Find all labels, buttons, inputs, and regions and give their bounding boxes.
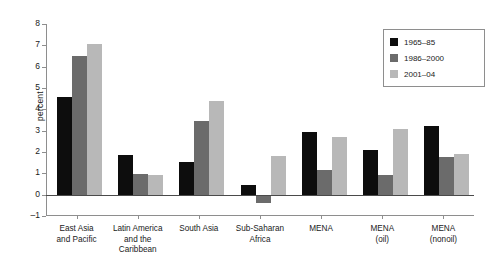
bar (72, 56, 87, 195)
legend-label: 1965–85 (404, 38, 435, 47)
y-axis-tick-label: –1 (20, 211, 40, 220)
bar (393, 129, 408, 195)
y-axis-tick-label: 8 (20, 19, 40, 28)
bar (194, 121, 209, 195)
legend: 1965–851986–20002001–04 (383, 29, 485, 87)
bar (424, 126, 439, 194)
bar-group (302, 24, 347, 216)
bar (148, 175, 163, 194)
x-axis-category-line: Africa (223, 235, 296, 246)
x-axis-category-line: Caribbean (101, 245, 174, 256)
y-axis-tick-label: 1 (20, 168, 40, 177)
bar-group (241, 24, 286, 216)
legend-item: 2001–04 (390, 67, 478, 81)
bar (332, 137, 347, 195)
bar (118, 155, 133, 194)
x-axis-category-line: and the (101, 235, 174, 246)
bar-group (179, 24, 224, 216)
legend-swatch-icon (390, 70, 398, 78)
y-axis-tick-label: 3 (20, 126, 40, 135)
x-axis-category-line: MENA (407, 224, 480, 235)
y-axis-tick-label: 4 (20, 104, 40, 113)
x-axis-tick-mark (260, 215, 261, 219)
bar (209, 101, 224, 195)
y-axis-tick-label: 5 (20, 83, 40, 92)
bar (363, 150, 378, 195)
x-axis-tick-mark (138, 215, 139, 219)
legend-label: 2001–04 (404, 70, 435, 79)
bar (271, 156, 286, 194)
bar (133, 174, 148, 194)
legend-swatch-icon (390, 38, 398, 46)
y-axis-tick-label: 2 (20, 147, 40, 156)
x-axis-category-label: MENA(nonoil) (407, 224, 480, 245)
legend-label: 1986–2000 (404, 54, 444, 63)
bar (256, 195, 271, 204)
x-axis-category-line: (nonoil) (407, 235, 480, 246)
legend-item: 1965–85 (390, 35, 478, 49)
y-axis-tick-label: 6 (20, 62, 40, 71)
bar (378, 175, 393, 194)
bar (57, 97, 72, 195)
y-axis-tick-label: 7 (20, 40, 40, 49)
x-axis-tick-mark (443, 215, 444, 219)
legend-swatch-icon (390, 54, 398, 62)
bar (87, 44, 102, 194)
x-axis-tick-mark (382, 215, 383, 219)
bar-group (57, 24, 102, 216)
x-axis-labels: East Asiaand PacificLatin Americaand the… (46, 224, 474, 260)
bar (317, 170, 332, 195)
legend-item: 1986–2000 (390, 51, 478, 65)
x-axis-tick-mark (77, 215, 78, 219)
zero-baseline (46, 195, 474, 196)
y-axis-tick-label: 0 (20, 190, 40, 199)
bar (302, 132, 317, 195)
x-axis-tick-mark (199, 215, 200, 219)
bar-chart: percent –1012345678 East Asiaand Pacific… (0, 0, 494, 263)
bar (179, 162, 194, 195)
bar-group (118, 24, 163, 216)
bar (241, 185, 256, 195)
x-axis-tick-mark (321, 215, 322, 219)
y-axis-tick-mark (42, 216, 46, 217)
bar (439, 157, 454, 194)
bar (454, 154, 469, 195)
